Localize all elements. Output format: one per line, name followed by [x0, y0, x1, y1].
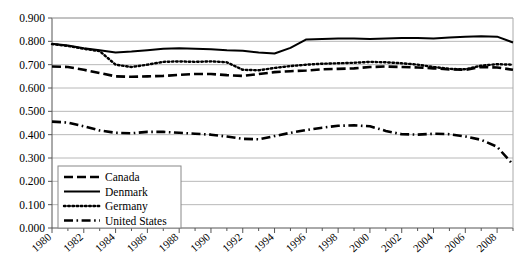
- x-tick-label: 1998: [315, 230, 340, 254]
- x-tick-label: 1984: [93, 230, 118, 254]
- y-tick-label: 0.300: [19, 152, 45, 164]
- x-tick-label: 1986: [124, 230, 149, 254]
- y-tick-label: 0.900: [19, 12, 45, 24]
- x-tick-label: 1992: [220, 231, 244, 255]
- x-axis-ticks: [52, 228, 513, 233]
- y-tick-label: 0.000: [19, 222, 45, 234]
- line-chart: 0.9000.8000.7000.6000.5000.4000.3000.200…: [0, 0, 530, 272]
- chart-canvas: 0.9000.8000.7000.6000.5000.4000.3000.200…: [0, 0, 530, 272]
- x-tick-label: 1994: [252, 230, 277, 254]
- x-tick-label: 2006: [442, 230, 467, 254]
- x-tick-label: 1982: [61, 231, 85, 255]
- y-tick-label: 0.800: [19, 35, 45, 47]
- x-tick-label: 2000: [347, 230, 372, 254]
- x-tick-label: 1996: [283, 230, 308, 254]
- x-tick-label: 2004: [410, 230, 435, 254]
- x-tick-label: 1988: [156, 230, 181, 254]
- legend-label-united-states: United States: [105, 215, 167, 227]
- y-tick-label: 0.200: [19, 175, 45, 187]
- chart-legend: CanadaDenmarkGermanyUnited States: [58, 166, 181, 228]
- legend-label-germany: Germany: [105, 200, 148, 213]
- y-tick-label: 0.500: [19, 105, 45, 117]
- y-tick-label: 0.600: [19, 82, 45, 94]
- legend-label-denmark: Denmark: [105, 186, 148, 198]
- legend-label-canada: Canada: [105, 171, 139, 183]
- x-axis-tick-labels: 1980198219841986198819901992199419961998…: [29, 230, 499, 254]
- y-tick-label: 0.700: [19, 59, 45, 71]
- x-tick-label: 2002: [379, 231, 403, 255]
- x-tick-label: 2008: [474, 230, 499, 254]
- y-tick-label: 0.100: [19, 199, 45, 211]
- y-tick-label: 0.400: [19, 129, 45, 141]
- x-tick-label: 1990: [188, 230, 213, 254]
- y-axis-tick-labels: 0.9000.8000.7000.6000.5000.4000.3000.200…: [19, 12, 52, 234]
